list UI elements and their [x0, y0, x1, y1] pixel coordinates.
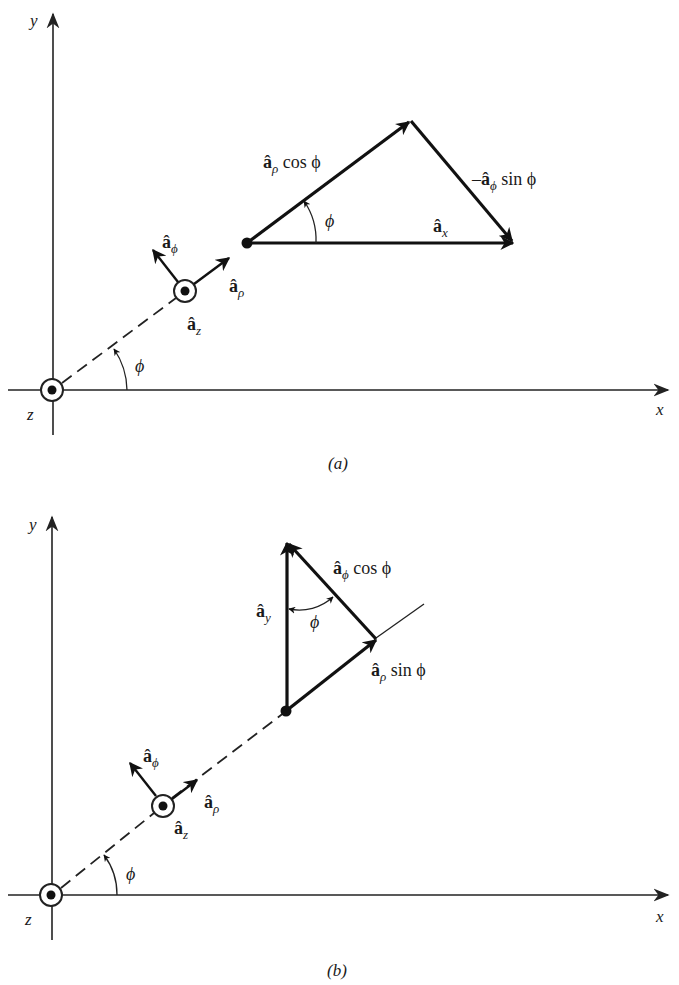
origin-angle-label-b: ϕ — [126, 864, 135, 884]
y-axis-label: y — [28, 11, 38, 30]
z-axis-label-b: z — [24, 910, 32, 929]
a-rho-sin-phi-vector — [286, 640, 376, 711]
angle-arc — [114, 349, 127, 390]
y-axis-label-b: y — [27, 515, 37, 534]
a-phi-label-b: âϕ — [143, 746, 159, 770]
a-rho-arrow-b — [172, 780, 197, 799]
triangle-angle-label-b: ϕ — [310, 612, 319, 632]
a-rho-label: âρ — [229, 276, 244, 300]
a-z-label-b: âz — [174, 818, 188, 842]
z-out-of-page-icon-b — [40, 884, 62, 906]
radial-line — [62, 298, 176, 383]
z-axis-label: z — [26, 405, 34, 424]
z-out-of-page-icon — [41, 379, 63, 401]
triangle-angle-arc — [304, 201, 316, 243]
panel-a — [8, 14, 668, 435]
radial-line-b-continuation — [376, 604, 424, 638]
caption-b: (b) — [327, 961, 347, 980]
radial-line-b — [61, 813, 154, 888]
a-rho-arrow — [194, 258, 229, 284]
origin-angle-label: ϕ — [135, 356, 144, 376]
a-phi-cos-phi-label: âϕ cos ϕ — [333, 558, 391, 582]
vector-decomposition-figure: y x z ϕ âϕ âρ âz âρ cos ϕ –âϕ sin ϕ âx ϕ… — [0, 0, 679, 985]
a-y-label: ây — [256, 601, 271, 625]
a-rho-label-b: âρ — [204, 792, 219, 816]
neg-a-phi-sin-phi-label: –âϕ sin ϕ — [471, 169, 536, 193]
caption-a: (a) — [328, 454, 348, 473]
x-axis-label-b: x — [655, 907, 664, 926]
triangle-angle-arc-b — [289, 597, 333, 610]
a-rho-sin-phi-label: âρ sin ϕ — [371, 660, 426, 684]
a-phi-label: âϕ — [162, 232, 178, 256]
a-z-label: âz — [187, 314, 201, 338]
triangle-angle-label: ϕ — [325, 211, 334, 231]
panel-b — [8, 517, 668, 940]
angle-arc-b — [104, 855, 117, 895]
a-z-out-of-page-icon — [174, 280, 196, 302]
x-axis-label: x — [655, 400, 664, 419]
a-x-label: âx — [433, 216, 448, 240]
a-rho-cos-phi-label: âρ cos ϕ — [263, 152, 321, 176]
a-z-out-of-page-icon-b — [152, 795, 174, 817]
